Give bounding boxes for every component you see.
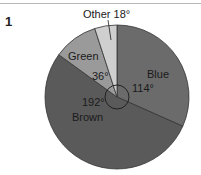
- label-blue-angle: 114°: [132, 82, 154, 94]
- label-other: Other 18°: [83, 8, 130, 20]
- pie-chart: Other 18° Green 36° Blue 114° 192° Brown: [0, 0, 201, 175]
- label-green-angle: 36°: [92, 70, 109, 82]
- label-green: Green: [68, 50, 99, 62]
- label-brown: Brown: [72, 111, 103, 123]
- label-brown-angle: 192°: [82, 96, 105, 108]
- label-blue: Blue: [147, 68, 169, 80]
